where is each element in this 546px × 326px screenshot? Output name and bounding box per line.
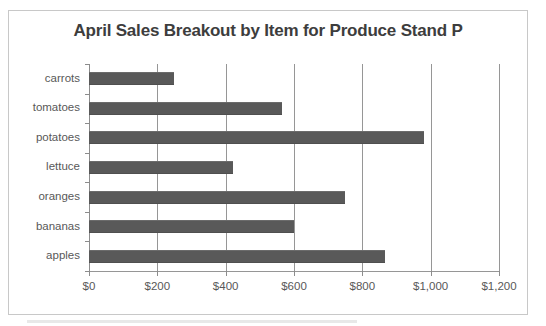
x-axis-tick-label: $800 xyxy=(350,280,376,292)
plot-area: carrotstomatoespotatoeslettuceorangesban… xyxy=(89,64,499,271)
x-axis-tick-label: $1,000 xyxy=(413,280,448,292)
x-axis-tick xyxy=(226,271,227,276)
bar-row: apples xyxy=(89,241,499,271)
bar-row: lettuce xyxy=(89,153,499,183)
y-axis-category-label: potatoes xyxy=(36,131,80,144)
x-axis-tick-label: $1,200 xyxy=(481,280,516,292)
bar xyxy=(89,161,233,174)
bar-row: oranges xyxy=(89,182,499,212)
gridline xyxy=(499,64,500,271)
x-axis-tick xyxy=(89,271,90,276)
chart-title: April Sales Breakout by Item for Produce… xyxy=(9,21,527,41)
x-axis-tick xyxy=(431,271,432,276)
x-axis-tick xyxy=(157,271,158,276)
x-axis-tick xyxy=(294,271,295,276)
bar xyxy=(89,131,424,144)
page-edge-artifact xyxy=(27,320,357,323)
bar-row: carrots xyxy=(89,64,499,94)
x-axis-tick-label: $600 xyxy=(281,280,307,292)
bar-row: potatoes xyxy=(89,123,499,153)
bar-row: tomatoes xyxy=(89,94,499,124)
y-axis-category-label: apples xyxy=(46,249,80,262)
bar-row: bananas xyxy=(89,212,499,242)
bar xyxy=(89,250,385,263)
y-axis-category-label: tomatoes xyxy=(33,101,80,114)
bar xyxy=(89,102,282,115)
x-axis-tick xyxy=(362,271,363,276)
x-axis-tick xyxy=(499,271,500,276)
bar xyxy=(89,220,294,233)
chart-frame: April Sales Breakout by Item for Produce… xyxy=(8,10,528,315)
x-axis-tick-label: $0 xyxy=(83,280,96,292)
x-axis-tick-label: $400 xyxy=(213,280,239,292)
y-axis-category-label: bananas xyxy=(36,220,80,233)
bar xyxy=(89,72,174,85)
y-axis-category-label: lettuce xyxy=(46,160,80,173)
y-axis-category-label: carrots xyxy=(45,72,80,85)
bar xyxy=(89,191,345,204)
x-axis-tick-label: $200 xyxy=(145,280,171,292)
y-axis-category-label: oranges xyxy=(38,190,80,203)
